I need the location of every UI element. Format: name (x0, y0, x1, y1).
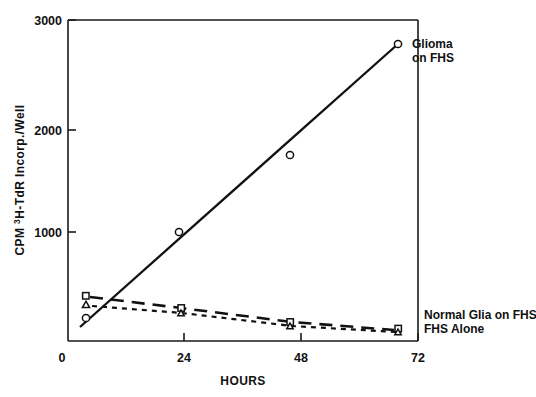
y-tick-label-1000: 1000 (34, 226, 62, 240)
chart-svg: 3000 2000 1000 0 24 48 72 HOURS CPM 3H-T… (0, 0, 536, 397)
y-axis-title-prefix: CPM (13, 224, 27, 256)
x-tick-label-72: 72 (411, 351, 425, 365)
label-glioma-on-fhs: Glioma on FHS (412, 37, 454, 65)
y-tick-label-2000: 2000 (34, 124, 62, 138)
data-point-glioma-24h (175, 228, 182, 235)
data-point-glioma-72h (394, 40, 401, 47)
data-point-normal-glia-6h (83, 293, 89, 299)
y-axis-title-rest: H-TdR Incorp./Well (13, 104, 27, 218)
x-tick-label-24: 24 (177, 351, 191, 365)
y-tick-label-0: 0 (59, 351, 66, 365)
label-glioma-line1: Glioma (412, 37, 453, 51)
chart-figure: 3000 2000 1000 0 24 48 72 HOURS CPM 3H-T… (0, 0, 536, 397)
x-axis-title: HOURS (220, 374, 265, 388)
label-glioma-line2: on FHS (412, 51, 454, 65)
svg-text:CPM 3H-TdR Incorp./Well: CPM 3H-TdR Incorp./Well (12, 104, 27, 255)
label-normal-glia-on-fhs: Normal Glia on FHS (424, 308, 536, 322)
label-fhs-alone: FHS Alone (424, 322, 485, 336)
y-axis-title: CPM 3H-TdR Incorp./Well (12, 104, 27, 255)
chart-background (0, 0, 536, 397)
data-point-glioma-48h (286, 151, 293, 158)
data-point-glioma-6h (82, 314, 89, 321)
y-tick-label-3000: 3000 (34, 14, 62, 28)
x-tick-label-48: 48 (294, 351, 308, 365)
